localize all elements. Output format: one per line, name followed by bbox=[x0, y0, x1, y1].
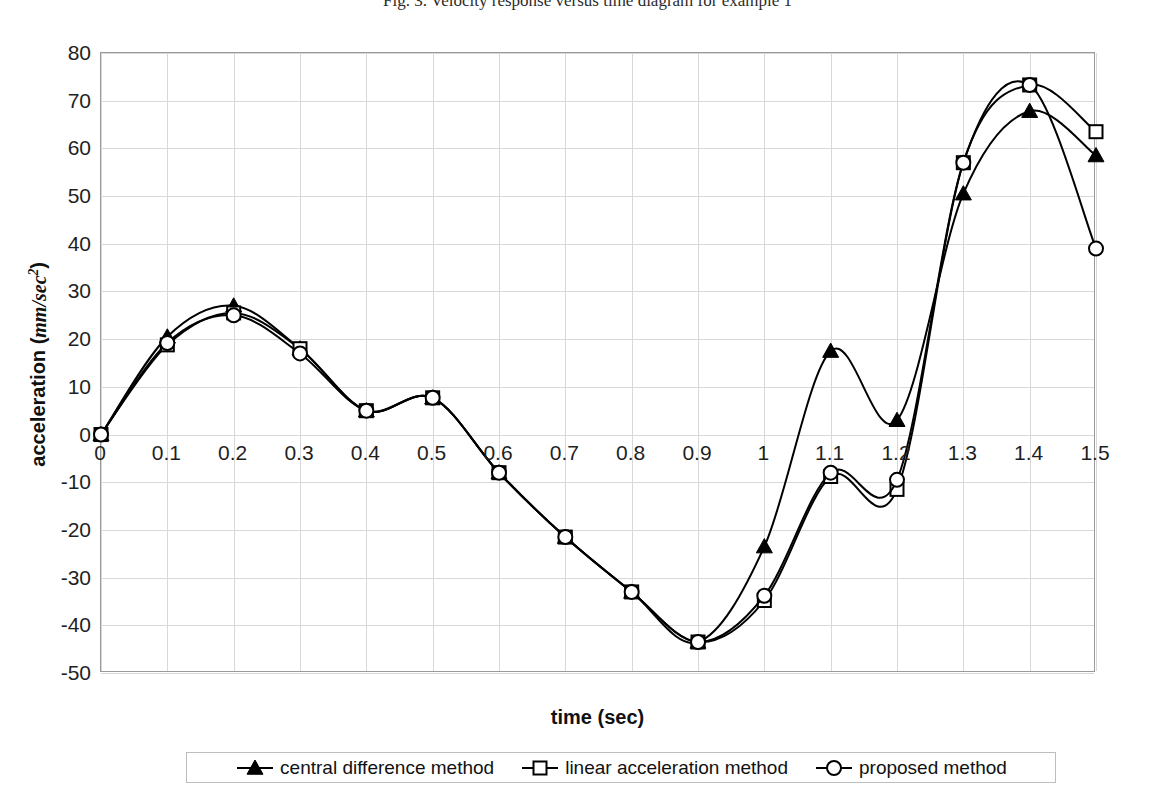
gridline-vertical bbox=[1096, 53, 1097, 671]
x-axis-title: time (sec) bbox=[100, 706, 1095, 729]
open-square-marker bbox=[534, 761, 547, 774]
x-axis-tick-label: 1.2 bbox=[881, 442, 910, 463]
y-axis-tick-label: 80 bbox=[68, 42, 91, 63]
y-axis-tick-label: 30 bbox=[68, 280, 91, 301]
x-axis-tick-label: 0.8 bbox=[616, 442, 645, 463]
x-axis-tick-label: 1.1 bbox=[815, 442, 844, 463]
series-line-central bbox=[101, 111, 1096, 643]
legend-entry-proposed[interactable]: proposed method bbox=[814, 757, 1007, 779]
legend-entry-central[interactable]: central difference method bbox=[235, 757, 494, 779]
open-circle-marker bbox=[625, 585, 639, 599]
chart-legend: central difference methodlinear accelera… bbox=[186, 752, 1056, 783]
x-axis-tick-label: 1.4 bbox=[1014, 442, 1043, 463]
open-circle-marker bbox=[160, 336, 174, 350]
x-axis-tick-label: 0.9 bbox=[682, 442, 711, 463]
y-axis-tick-label: -30 bbox=[61, 567, 91, 588]
y-axis-tick-label: 50 bbox=[68, 185, 91, 206]
x-axis-tick-label: 0.2 bbox=[218, 442, 247, 463]
y-axis-tick-label: 10 bbox=[68, 376, 91, 397]
legend-label-central: central difference method bbox=[280, 757, 494, 779]
open-circle-marker bbox=[558, 530, 572, 544]
open-circle-marker bbox=[757, 589, 771, 603]
legend-marker-open-circle-icon bbox=[814, 758, 854, 778]
filled-triangle-marker bbox=[889, 412, 905, 426]
y-axis-title-text: acceleration bbox=[27, 350, 49, 467]
y-axis-tick-label: -20 bbox=[61, 519, 91, 540]
chart-area: 80706050403020100-10-20-30-40-50 00.10.2… bbox=[0, 0, 1175, 785]
y-axis-title: acceleration (mm/sec2) bbox=[26, 174, 51, 554]
open-circle-marker bbox=[1089, 242, 1103, 256]
open-circle-marker bbox=[94, 428, 108, 442]
series-layer bbox=[101, 53, 1096, 673]
open-circle-marker bbox=[824, 466, 838, 480]
filled-triangle-marker bbox=[756, 539, 772, 553]
filled-triangle-marker bbox=[955, 186, 971, 200]
filled-triangle-marker bbox=[823, 343, 839, 357]
x-axis-tick-label: 0.1 bbox=[152, 442, 181, 463]
legend-label-proposed: proposed method bbox=[859, 757, 1007, 779]
x-axis-tick-label: 0.6 bbox=[483, 442, 512, 463]
x-axis-tick-label: 0.7 bbox=[550, 442, 579, 463]
legend-marker-open-square-icon bbox=[520, 758, 560, 778]
open-circle-marker bbox=[890, 473, 904, 487]
y-axis-tick-label: 70 bbox=[68, 90, 91, 111]
series-proposed bbox=[94, 78, 1103, 649]
x-axis-tick-label: 0.5 bbox=[417, 442, 446, 463]
open-circle-marker bbox=[956, 156, 970, 170]
x-axis-tick-label: 1.3 bbox=[948, 442, 977, 463]
x-axis-tick-label: 1.5 bbox=[1080, 442, 1109, 463]
y-axis-tick-label: -50 bbox=[61, 662, 91, 683]
series-line-proposed bbox=[101, 81, 1096, 642]
open-square-marker bbox=[1090, 125, 1103, 138]
open-circle-marker bbox=[492, 466, 506, 480]
y-axis-tick-label: -40 bbox=[61, 614, 91, 635]
series-line-linear bbox=[101, 85, 1096, 643]
x-axis-tick-label: 0.4 bbox=[351, 442, 380, 463]
plot-box bbox=[100, 52, 1095, 672]
open-circle-marker bbox=[359, 404, 373, 418]
y-axis-unit-text: mm/sec bbox=[27, 275, 49, 337]
y-axis-tick-label: 40 bbox=[68, 233, 91, 254]
open-circle-marker bbox=[227, 308, 241, 322]
y-axis-unit-exponent: 2 bbox=[26, 269, 41, 276]
y-axis-tick-label: 60 bbox=[68, 137, 91, 158]
open-circle-marker bbox=[293, 346, 307, 360]
legend-label-linear: linear acceleration method bbox=[565, 757, 788, 779]
series-linear bbox=[95, 78, 1103, 648]
x-axis-tick-label: 0.3 bbox=[284, 442, 313, 463]
legend-entry-linear[interactable]: linear acceleration method bbox=[520, 757, 788, 779]
y-axis-tick-label: -10 bbox=[61, 471, 91, 492]
open-circle-marker bbox=[1023, 78, 1037, 92]
open-circle-marker bbox=[827, 761, 841, 775]
y-axis-tick-label: 0 bbox=[79, 424, 91, 445]
legend-marker-filled-triangle-icon bbox=[235, 758, 275, 778]
open-circle-marker bbox=[426, 391, 440, 405]
x-axis-tick-label: 0 bbox=[94, 442, 106, 463]
gridline-horizontal bbox=[101, 673, 1094, 674]
x-axis-tick-label: 1 bbox=[757, 442, 769, 463]
y-axis-tick-label: 20 bbox=[68, 328, 91, 349]
open-circle-marker bbox=[691, 635, 705, 649]
